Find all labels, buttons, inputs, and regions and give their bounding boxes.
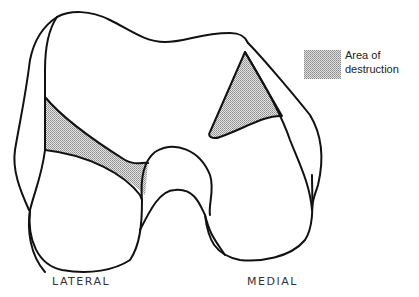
- lateral-condyle-outline: [30, 200, 142, 272]
- legend-line-1: Area of: [345, 48, 399, 62]
- legend-line-2: destruction: [345, 62, 399, 76]
- intercondylar-notch-inner: [140, 190, 225, 255]
- femur-top-outline: [57, 12, 248, 43]
- medial-destruction-area: [209, 52, 282, 138]
- femur-condyle-diagram: [0, 0, 419, 297]
- medial-label: MEDIAL: [247, 275, 298, 288]
- lateral-label: LATERAL: [52, 275, 110, 288]
- intercondylar-notch-outer: [142, 147, 212, 215]
- legend-label: Area of destruction: [345, 48, 399, 76]
- legend-swatch: [304, 50, 341, 79]
